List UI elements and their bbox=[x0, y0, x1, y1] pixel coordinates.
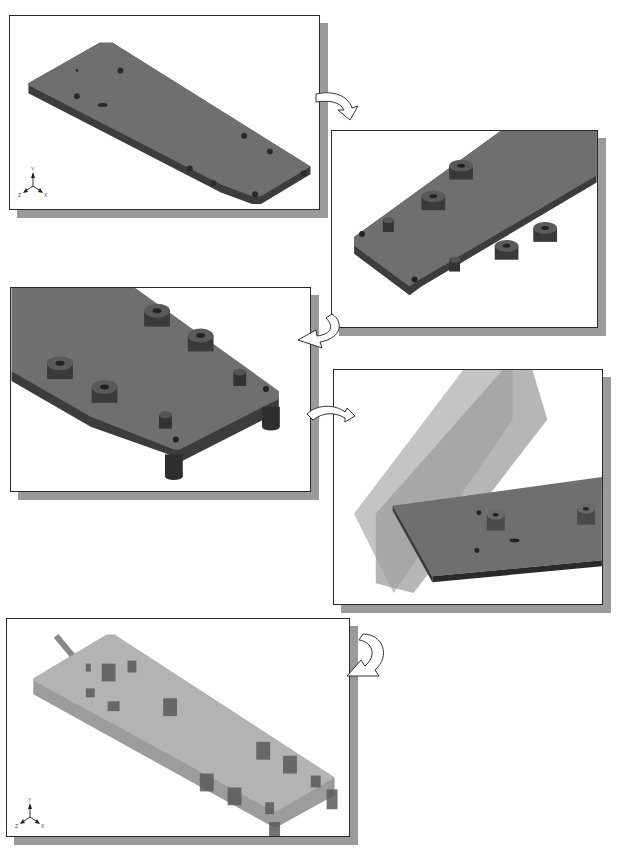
step-1-panel: Y Z X bbox=[9, 15, 320, 210]
svg-text:Z: Z bbox=[15, 823, 18, 829]
standoffs-illustration bbox=[11, 288, 310, 491]
step-2-panel bbox=[331, 130, 598, 328]
curved-arrow-step1-to-step2 bbox=[314, 88, 370, 124]
step-4-panel bbox=[333, 369, 603, 605]
svg-text:Z: Z bbox=[18, 192, 21, 198]
svg-text:Y: Y bbox=[28, 797, 32, 803]
base-plate-illustration bbox=[10, 16, 319, 209]
step-3-panel bbox=[10, 287, 311, 492]
step-5-panel: Y Z X bbox=[6, 618, 350, 837]
bosses-illustration bbox=[332, 131, 597, 327]
transparent-plate-illustration bbox=[7, 619, 349, 836]
axis-triad: Y Z X bbox=[15, 797, 45, 829]
curved-arrow-step2-to-step3 bbox=[296, 312, 348, 352]
curved-arrow-step3-to-step4 bbox=[305, 402, 357, 426]
svg-text:X: X bbox=[44, 192, 48, 198]
svg-text:X: X bbox=[41, 823, 45, 829]
datum-planes-illustration bbox=[334, 370, 602, 604]
curved-arrow-step4-to-step5 bbox=[343, 632, 393, 682]
axis-triad: Y Z X bbox=[18, 166, 48, 198]
svg-text:Y: Y bbox=[31, 166, 35, 172]
